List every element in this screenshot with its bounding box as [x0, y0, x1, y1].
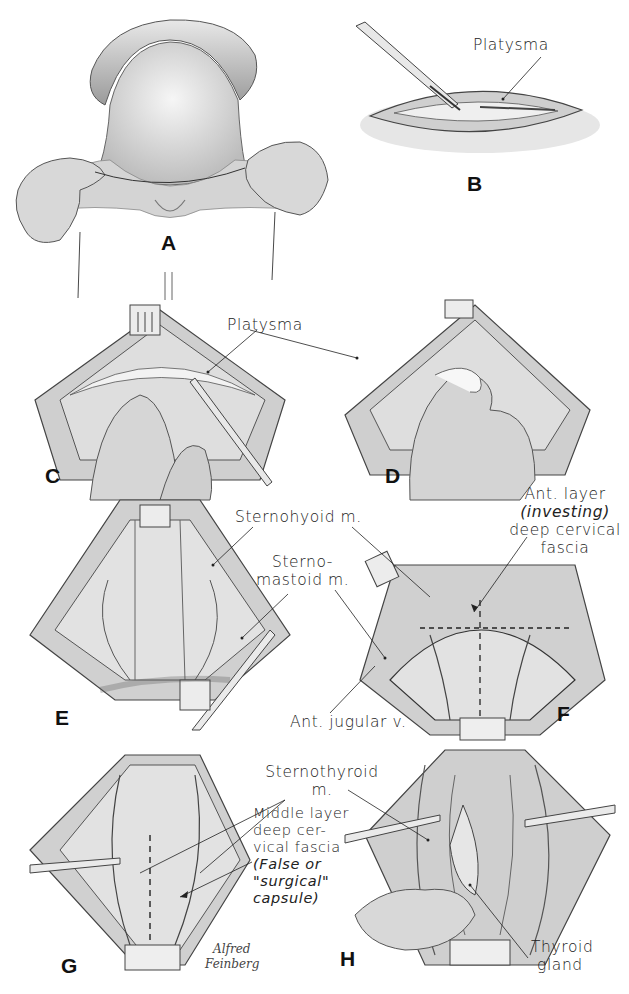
panel-letter-b: B: [467, 172, 482, 196]
panel-letter-f: F: [557, 702, 570, 726]
panel-letter-e: E: [55, 706, 69, 730]
label-sternohyoid: Sternohyoid m.: [235, 508, 362, 526]
investing-fascia-illustration: [350, 540, 610, 740]
panel-f: F: [350, 540, 610, 740]
label-thyroid-gland: Thyroid gland: [531, 938, 593, 974]
panel-letter-a: A: [161, 231, 176, 255]
neck-illustration: [0, 0, 330, 300]
artist-signature: Alfred Feinberg: [205, 942, 260, 972]
label-platysma-c: Platysma: [227, 316, 303, 334]
label-middle-layer-fascia: Middle layer deep cer- vical fascia (Fal…: [253, 805, 349, 907]
blunt-dissection-illustration: [340, 300, 610, 500]
panel-b: B: [330, 0, 629, 190]
panel-letter-h: H: [340, 947, 355, 971]
panel-letter-d: D: [385, 464, 400, 488]
panel-d: D: [340, 300, 610, 500]
panel-letter-g: G: [61, 954, 77, 978]
label-sternomastoid: Sterno- mastoid m.: [272, 553, 349, 589]
label-anterior-layer-fascia: Ant. layer (investing) deep cervical fas…: [505, 485, 625, 557]
label-ant-jugular-v: Ant. jugular v.: [290, 713, 407, 731]
incision-illustration: [330, 0, 629, 190]
panel-a: A: [0, 0, 330, 300]
label-platysma-b: Platysma: [473, 36, 549, 54]
label-sternothyroid: Sternothyroid m.: [252, 763, 392, 799]
